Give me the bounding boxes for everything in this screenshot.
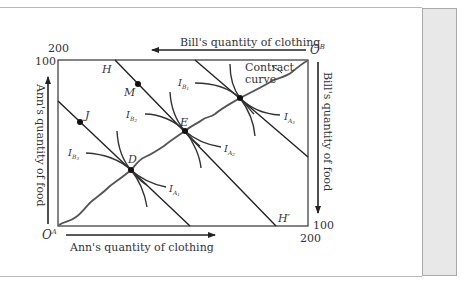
point-J	[77, 119, 83, 125]
contract-curve-label-line2: curve	[245, 73, 276, 86]
point-D	[128, 167, 134, 173]
origin-bill: OB	[310, 43, 325, 57]
ann-food-label: Ann's quantity of food	[34, 83, 47, 207]
label-IA2: IA2	[223, 143, 235, 157]
tick-100-top: 100	[35, 55, 56, 68]
label-D: D	[127, 153, 137, 166]
label-H-prime: H′	[277, 212, 291, 225]
label-IB2: IB2	[125, 109, 137, 123]
label-IA1: IA1	[168, 183, 180, 197]
tick-200-top: 200	[48, 42, 69, 55]
bill-clothing-label: Bill's quantity of clothing	[180, 36, 320, 49]
indifference-curve-IB1	[195, 83, 254, 114]
label-J: J	[83, 109, 90, 122]
label-IA3: IA3	[283, 111, 295, 125]
label-E: E	[179, 116, 188, 129]
point-M	[135, 81, 141, 87]
point-upper-tangency	[237, 95, 243, 101]
bill-food-label: Bill's quantity of food	[321, 72, 334, 191]
tick-200-bottom: 200	[300, 232, 321, 245]
label-M: M	[123, 86, 136, 99]
origin-ann: OA	[42, 228, 57, 242]
label-IB1: IB1	[177, 77, 189, 91]
tick-100-bottom: 100	[313, 219, 334, 232]
label-H: H	[101, 63, 112, 76]
label-IB3: IB3	[67, 147, 79, 161]
edgeworth-box-diagram: 200 100 100 200 Bill's quantity of cloth…	[0, 0, 468, 283]
ann-clothing-label: Ann's quantity of clothing	[69, 241, 214, 254]
